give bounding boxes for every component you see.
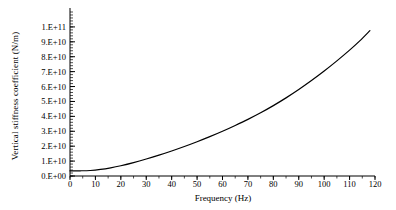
x-axis-title: Frequency (Hz) (70, 193, 376, 203)
y-axis-tick-marks (70, 12, 75, 176)
data-series-line (70, 31, 370, 171)
chart-container: Vertical stiffness coefficient (N/m) 0.E… (0, 0, 396, 210)
plot-area (0, 0, 396, 210)
x-axis-tick-marks (70, 176, 375, 180)
